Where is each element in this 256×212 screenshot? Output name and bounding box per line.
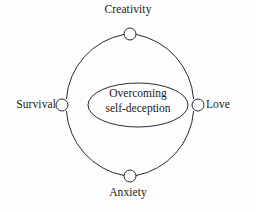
center-text-line-2: self-deception (88, 101, 188, 116)
node-label-survival: Survival (16, 98, 56, 111)
node-label-creativity: Creativity (0, 3, 256, 16)
node-love[interactable] (192, 99, 204, 111)
node-label-love: Love (206, 98, 230, 111)
node-survival[interactable] (56, 99, 68, 111)
node-anxiety[interactable] (124, 170, 136, 182)
arc-anxiety-to-survival (66, 111, 124, 176)
node-creativity[interactable] (124, 28, 136, 40)
arc-love-to-anxiety (136, 111, 194, 176)
center-ellipse-text: Overcoming self-deception (88, 86, 188, 115)
cycle-diagram: Creativity Love Anxiety Survival Overcom… (0, 0, 256, 212)
node-label-anxiety: Anxiety (0, 186, 256, 199)
center-text-line-1: Overcoming (88, 86, 188, 101)
